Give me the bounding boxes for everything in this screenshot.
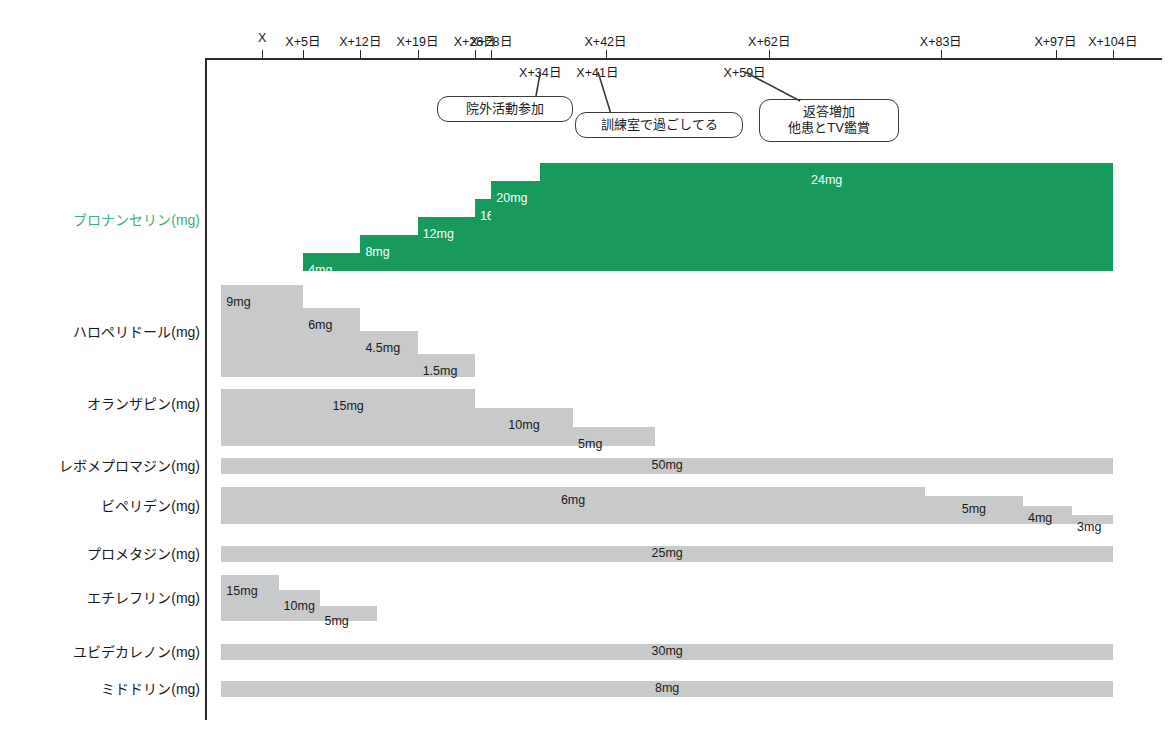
annotation-callout-more-responses: 返答増加他患とTV鑑賞	[759, 99, 899, 142]
annotation-line-1: 返答増加	[769, 104, 889, 120]
medication-timeline-chart: XX+5日X+12日X+19日X+26日X+28日X+42日X+62日X+83日…	[0, 0, 1168, 742]
annotations-layer: 院外活動参加訓練室で過ごしてる返答増加他患とTV鑑賞	[0, 0, 1168, 742]
annotation-callout-training-room: 訓練室で過ごしてる	[575, 112, 743, 138]
annotation-line-2: 他患とTV鑑賞	[769, 120, 889, 136]
annotation-callout-outside-activity: 院外活動参加	[437, 96, 573, 122]
